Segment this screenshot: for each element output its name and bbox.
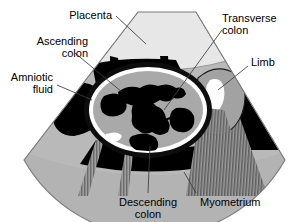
label-placenta: Placenta [69, 9, 113, 21]
label-descending-colon-line1: Descending [119, 196, 177, 208]
label-limb: Limb [251, 56, 275, 68]
label-ascending-colon-line1: Ascending [37, 35, 88, 47]
label-transverse-colon-line2: colon [222, 24, 248, 36]
ascending-colon-loop [100, 93, 126, 116]
ultrasound-figure: Placenta Ascending colon Amniotic fluid … [0, 0, 307, 222]
label-amniotic-fluid-line2: fluid [33, 83, 53, 95]
ultrasound-diagram-svg: Placenta Ascending colon Amniotic fluid … [0, 0, 307, 222]
label-amniotic-fluid-line1: Amniotic [11, 71, 54, 83]
label-descending-colon-line2: colon [135, 208, 161, 220]
label-transverse-colon-line1: Transverse [222, 12, 277, 24]
label-ascending-colon-line2: colon [62, 47, 88, 59]
right-bowel-loop [170, 108, 195, 133]
label-myometrium: Myometrium [200, 196, 261, 208]
